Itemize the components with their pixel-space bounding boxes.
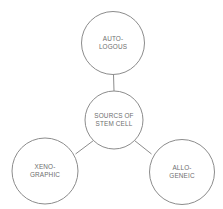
node-circle-sources-of-stem-cell[interactable]: [85, 91, 143, 149]
connector-center-to-autologous: [114, 75, 115, 92]
node-circle-xenographic[interactable]: [12, 138, 78, 204]
connector-center-to-xenographic: [76, 141, 94, 155]
node-circle-autologous[interactable]: [82, 12, 145, 75]
node-circle-allogeneic[interactable]: [150, 140, 215, 205]
connector-center-to-allogeneic: [135, 141, 152, 155]
diagram-canvas: AUTO- LOGOUS SOURCS OF STEM CELL XENO- G…: [0, 0, 223, 209]
diagram-graphics: [0, 0, 223, 209]
